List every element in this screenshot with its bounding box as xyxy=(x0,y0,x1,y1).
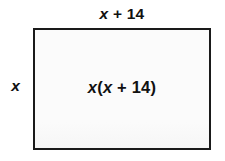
rectangle-area-expression: x(x + 14) xyxy=(33,79,211,96)
math-variable: x xyxy=(11,77,20,94)
math-variable: x xyxy=(100,5,109,22)
math-variable: x xyxy=(103,78,112,96)
rectangle-fill-shading xyxy=(35,122,209,148)
math-variable: x xyxy=(88,78,97,96)
area-model-figure: x + 14 x x(x + 14) xyxy=(0,0,225,161)
rectangle-height-label: x xyxy=(0,78,31,94)
rectangle-width-label: x + 14 xyxy=(33,6,211,22)
